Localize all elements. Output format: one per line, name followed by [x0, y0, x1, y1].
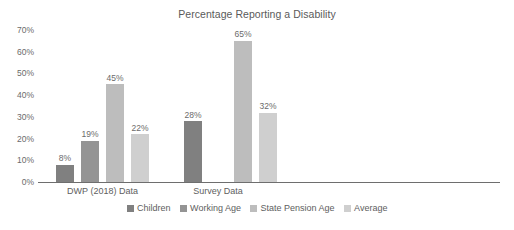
y-axis: 0%10%20%30%40%50%60%70%	[0, 0, 38, 230]
chart-legend: ChildrenWorking AgeState Pension AgeAver…	[0, 203, 514, 213]
x-axis-category-label: DWP (2018) Data	[67, 186, 138, 196]
legend-item[interactable]: Working Age	[180, 203, 241, 213]
bar[interactable]: 19%	[81, 141, 99, 182]
y-axis-tick-label: 0%	[22, 177, 34, 187]
bar-value-label: 19%	[81, 130, 98, 139]
y-axis-tick-label: 20%	[17, 134, 34, 144]
bar[interactable]: 45%	[106, 84, 124, 182]
bar[interactable]: 65%	[234, 41, 252, 182]
y-axis-tick-label: 60%	[17, 47, 34, 57]
bar-value-label: 32%	[259, 102, 276, 111]
legend-item[interactable]: Children	[127, 203, 171, 213]
bar-group: 28%65%32%	[184, 26, 284, 182]
y-axis-tick-label: 40%	[17, 90, 34, 100]
bar[interactable]: 28%	[184, 121, 202, 182]
legend-label: Children	[137, 203, 171, 213]
x-axis-category-label: Survey Data	[193, 186, 243, 196]
legend-swatch-icon	[180, 205, 187, 212]
legend-swatch-icon	[250, 205, 257, 212]
legend-label: State Pension Age	[260, 203, 334, 213]
bar-value-label: 8%	[59, 154, 71, 163]
y-axis-tick-label: 30%	[17, 112, 34, 122]
bar-value-label: 65%	[234, 30, 251, 39]
chart-title: Percentage Reporting a Disability	[0, 8, 514, 20]
bar-value-label: 45%	[106, 74, 123, 83]
legend-label: Average	[354, 203, 387, 213]
bar[interactable]: 22%	[131, 134, 149, 182]
y-axis-tick-label: 70%	[17, 25, 34, 35]
legend-item[interactable]: State Pension Age	[250, 203, 335, 213]
legend-label: Working Age	[190, 203, 241, 213]
legend-swatch-icon	[127, 205, 134, 212]
plot-area: 8%19%45%22%28%65%32%	[38, 26, 500, 182]
y-axis-tick-label: 10%	[17, 155, 34, 165]
legend-swatch-icon	[344, 205, 351, 212]
y-axis-tick-label: 50%	[17, 68, 34, 78]
bar-chart: Percentage Reporting a Disability 0%10%2…	[0, 0, 514, 230]
legend-item[interactable]: Average	[344, 203, 388, 213]
bar-value-label: 28%	[184, 111, 201, 120]
bar[interactable]: 32%	[259, 113, 277, 182]
bar[interactable]: 8%	[56, 165, 74, 182]
bar-group: 8%19%45%22%	[56, 26, 156, 182]
bar-value-label: 22%	[131, 124, 148, 133]
x-axis-line	[38, 182, 500, 183]
